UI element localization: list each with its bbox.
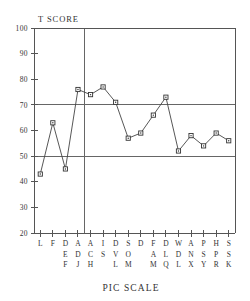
x-label-SSK: K	[226, 260, 232, 269]
data-point-center-ACH	[90, 94, 91, 95]
x-label-ADJ: D	[75, 250, 81, 259]
x-label-HPR: P	[214, 250, 218, 259]
profile-line	[40, 87, 228, 174]
x-axis-labels: LFDEFADJACHISDVLSOMDFAMDLQWDLANXPSYHPRSS…	[38, 239, 232, 269]
data-point-center-IS	[102, 86, 103, 87]
x-label-ADJ: A	[75, 239, 81, 248]
x-label-SSK: S	[227, 239, 231, 248]
data-point-center-D	[140, 132, 141, 133]
y-tick-label: 60	[20, 126, 28, 135]
y-tick-label: 80	[20, 75, 28, 84]
data-point-center-HPR	[215, 132, 216, 133]
data-point-center-DVL	[115, 102, 116, 103]
x-label-FAM: A	[151, 250, 157, 259]
chart-svg: 1009080706050403020 LFDEFADJACHISDVLSOMD…	[0, 0, 250, 301]
x-label-ADJ: J	[77, 260, 80, 269]
x-label-SSK: S	[227, 250, 231, 259]
data-point-center-FAM	[153, 114, 154, 115]
x-label-WDL: W	[175, 239, 183, 248]
x-label-HPR: H	[213, 239, 219, 248]
x-label-F: F	[51, 239, 55, 248]
data-point-center-PSY	[203, 145, 204, 146]
x-label-DEF: F	[63, 260, 67, 269]
data-markers	[38, 85, 231, 176]
y-tick-label: 20	[20, 229, 28, 238]
data-point-center-F	[52, 122, 53, 123]
x-label-HPR: R	[214, 260, 219, 269]
x-label-DEF: E	[63, 250, 68, 259]
y-tick-label: 40	[20, 177, 28, 186]
x-label-PSY: S	[202, 250, 206, 259]
data-point-center-WDL	[178, 150, 179, 151]
pic-profile-chart: 1009080706050403020 LFDEFADJACHISDVLSOMD…	[0, 0, 250, 301]
x-label-WDL: D	[176, 250, 182, 259]
x-label-ANX: N	[188, 250, 194, 259]
y-tick-label: 100	[16, 24, 28, 33]
x-label-ANX: A	[188, 239, 194, 248]
x-label-DVL: V	[113, 250, 119, 259]
data-point-center-DEF	[65, 168, 66, 169]
y-tick-label: 90	[20, 49, 28, 58]
data-point-center-SSK	[228, 140, 229, 141]
y-tick-label: 70	[20, 101, 28, 110]
data-point-center-ADJ	[77, 89, 78, 90]
x-axis-title: PIC SCALE	[102, 283, 159, 293]
data-point-center-ANX	[190, 135, 191, 136]
x-label-SOM: M	[125, 260, 132, 269]
x-label-ACH: C	[88, 250, 93, 259]
x-label-DVL: D	[113, 239, 119, 248]
x-label-DVL: L	[113, 260, 118, 269]
data-point-center-SOM	[128, 137, 129, 138]
x-label-WDL: L	[176, 260, 181, 269]
chart-axes	[34, 28, 235, 233]
x-label-DEF: D	[63, 239, 69, 248]
x-label-PSY: Y	[201, 260, 207, 269]
x-label-IS: S	[101, 250, 105, 259]
x-label-ACH: H	[88, 260, 94, 269]
x-label-FAM: M	[150, 260, 157, 269]
x-label-FAM: F	[151, 239, 155, 248]
x-label-ANX: X	[188, 260, 194, 269]
data-point-center-L	[40, 173, 41, 174]
y-tick-label: 50	[20, 152, 28, 161]
x-label-SOM: O	[126, 250, 132, 259]
x-label-IS: I	[102, 239, 105, 248]
x-label-PSY: P	[202, 239, 206, 248]
x-label-ACH: A	[88, 239, 94, 248]
x-label-DLQ: D	[163, 239, 169, 248]
x-label-D: D	[138, 239, 144, 248]
data-series	[40, 87, 228, 174]
x-label-SOM: S	[126, 239, 130, 248]
x-label-L: L	[38, 239, 43, 248]
x-label-DLQ: Q	[163, 260, 169, 269]
data-point-center-DLQ	[165, 96, 166, 97]
y-axis-title: T SCORE	[38, 14, 79, 24]
gridlines	[34, 28, 235, 233]
x-label-DLQ: L	[164, 250, 169, 259]
y-tick-label: 30	[20, 203, 28, 212]
